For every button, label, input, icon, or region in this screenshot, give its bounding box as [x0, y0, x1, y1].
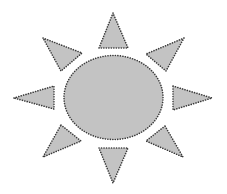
ray-bottom-left [43, 125, 81, 157]
ray-bottom [99, 148, 128, 183]
ray-bottom-right [146, 126, 183, 157]
ray-right [173, 86, 212, 110]
sun-body [64, 56, 163, 140]
ray-top [99, 13, 128, 48]
ray-top-right [146, 38, 184, 71]
ray-top-left [43, 38, 82, 71]
sun-icon [0, 0, 227, 194]
sun-drawing: Sun [0, 0, 227, 194]
ray-left [14, 86, 54, 109]
